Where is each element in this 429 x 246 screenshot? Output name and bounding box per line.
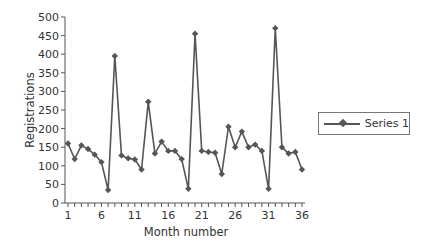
x-tick-label: 1 xyxy=(65,209,72,222)
y-tick-label: 150 xyxy=(38,141,59,154)
x-tick-label: 31 xyxy=(262,209,276,222)
y-tick-label: 250 xyxy=(38,104,59,117)
data-point-marker xyxy=(152,150,158,156)
legend: Series 1 xyxy=(318,112,410,135)
y-tick-label: 350 xyxy=(38,67,59,80)
data-point-marker xyxy=(299,166,305,172)
data-point-marker xyxy=(118,152,124,158)
x-tick-label: 16 xyxy=(161,209,175,222)
data-point-marker xyxy=(185,186,191,192)
y-tick-label: 50 xyxy=(45,178,59,191)
data-point-marker xyxy=(245,144,251,150)
x-tick-label: 36 xyxy=(295,209,309,222)
legend-label: Series 1 xyxy=(365,117,409,130)
y-tick-label: 500 xyxy=(38,11,59,24)
x-axis-title: Month number xyxy=(144,225,229,239)
x-tick-label: 11 xyxy=(128,209,142,222)
data-point-marker xyxy=(192,31,198,37)
y-tick-label: 0 xyxy=(52,197,59,210)
data-point-marker xyxy=(112,53,118,59)
data-point-marker xyxy=(225,124,231,130)
x-tick-label: 21 xyxy=(195,209,209,222)
data-point-marker xyxy=(145,99,151,105)
y-axis: 050100150200250300350400450500 xyxy=(38,11,65,210)
data-point-marker xyxy=(265,186,271,192)
y-tick-label: 100 xyxy=(38,160,59,173)
y-tick-label: 400 xyxy=(38,48,59,61)
data-point-marker xyxy=(105,187,111,193)
data-point-marker xyxy=(239,128,245,134)
data-point-marker xyxy=(232,144,238,150)
data-point-marker xyxy=(272,25,278,31)
data-point-marker xyxy=(292,149,298,155)
x-axis: 16111621263136 xyxy=(65,203,310,222)
data-point-marker xyxy=(65,140,71,146)
x-tick-label: 6 xyxy=(98,209,105,222)
data-point-marker xyxy=(199,148,205,154)
data-point-marker xyxy=(205,149,211,155)
y-tick-label: 450 xyxy=(38,30,59,43)
data-point-marker xyxy=(219,171,225,177)
x-tick-label: 26 xyxy=(228,209,242,222)
data-point-marker xyxy=(71,156,77,162)
diamond-marker-icon xyxy=(339,118,347,126)
series-line xyxy=(68,28,302,190)
data-point-marker xyxy=(78,142,84,148)
data-point-marker xyxy=(212,150,218,156)
data-point-marker xyxy=(125,155,131,161)
legend-line-icon xyxy=(324,123,360,125)
y-tick-label: 300 xyxy=(38,85,59,98)
y-axis-title: Registrations xyxy=(23,72,37,147)
y-tick-label: 200 xyxy=(38,123,59,136)
series-line xyxy=(65,25,305,193)
